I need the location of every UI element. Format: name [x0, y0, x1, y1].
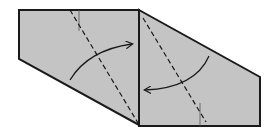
origami-diagram — [0, 0, 275, 133]
right-panel — [139, 10, 260, 126]
